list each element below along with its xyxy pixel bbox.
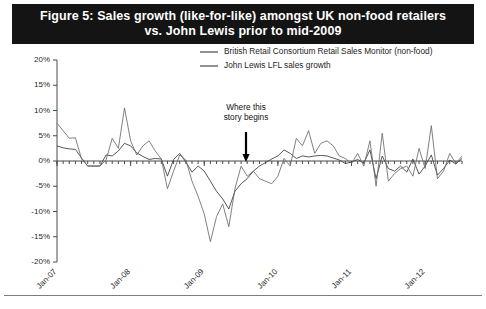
y-tick-label: 15% [34,80,50,89]
x-tick-label: Jan-12 [403,267,427,291]
annotation-line-2: story begins [224,112,269,122]
y-tick-label: 20% [34,55,50,64]
bottom-divider [4,295,482,296]
series-line-brc [57,143,462,209]
y-tick-label: 5% [38,131,50,140]
chart-legend: British Retail Consortium Retail Sales M… [200,46,433,70]
x-tick-label: Jan-11 [330,267,354,291]
y-axis: 20%15%10%5%0%-5%-10%-15%-20% [31,55,57,266]
data-series-group [57,108,462,242]
x-tick-label: Jan-07 [35,267,59,291]
x-tick-label: Jan-08 [108,267,132,291]
x-tick-label: Jan-10 [256,267,280,291]
y-tick-label: -10% [31,207,50,216]
y-tick-label: -15% [31,232,50,241]
x-axis: Jan-07Jan-08Jan-09Jan-10Jan-11Jan-12 [35,161,462,291]
y-tick-label: 10% [34,106,50,115]
series-line-john-lewis [57,108,462,242]
chart-annotation: Where thisstory begins [224,102,269,162]
legend-label: British Retail Consortium Retail Sales M… [224,46,433,56]
y-tick-label: -20% [31,257,50,266]
x-tick-label: Jan-09 [182,267,206,291]
y-tick-label: 0% [38,156,50,165]
chart-svg: 20%15%10%5%0%-5%-10%-15%-20% Jan-07Jan-0… [0,0,486,309]
y-tick-label: -5% [36,181,50,190]
annotation-line-1: Where this [226,102,266,112]
legend-label: John Lewis LFL sales growth [224,60,331,70]
figure-container: Figure 5: Sales growth (like-for-like) a… [0,0,486,309]
